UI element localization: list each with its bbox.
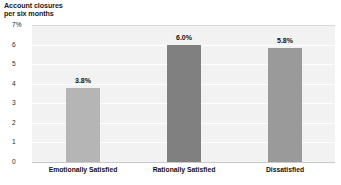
x-axis-category-label: Dissatisfied <box>225 165 341 174</box>
bar-value-label: 3.8% <box>53 77 113 85</box>
bar <box>66 88 100 162</box>
chart-title: Account closures per six months <box>4 2 124 19</box>
chart-title-line-2: per six months <box>4 10 124 18</box>
plot-area: 3.8%6.0%5.8% <box>32 25 335 162</box>
bar-value-label: 5.8% <box>255 37 315 45</box>
bar-value-label: 6.0% <box>154 34 214 42</box>
x-axis-category-labels: Emotionally SatisfiedRationally Satisfie… <box>32 165 335 179</box>
bar-chart: Account closures per six months 7%654321… <box>0 0 341 185</box>
y-axis-tick-labels: 7%6543210 <box>0 25 30 162</box>
bar <box>167 45 201 162</box>
gridline <box>32 25 335 26</box>
bar <box>268 48 302 162</box>
gridline <box>32 162 335 163</box>
